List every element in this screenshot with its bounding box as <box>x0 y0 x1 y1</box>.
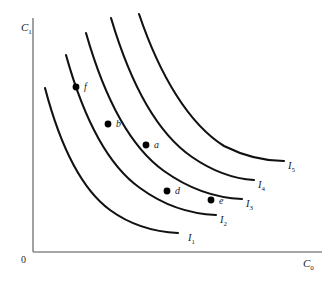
curve-label-sub: 2 <box>224 220 228 228</box>
data-point-f <box>73 84 80 91</box>
origin-label: 0 <box>21 255 26 265</box>
curve-label-sub: 3 <box>250 204 254 212</box>
y-axis-label: C1 <box>21 22 32 36</box>
curve-label-i1: I1 <box>188 233 195 246</box>
data-point-e <box>208 197 215 204</box>
curve-label-sub: 5 <box>292 166 296 174</box>
data-point-d <box>164 188 171 195</box>
indifference-curve-i3 <box>86 33 242 199</box>
axes-group <box>33 18 322 252</box>
curve-label-i4: I4 <box>258 180 265 193</box>
point-label-a: a <box>154 140 159 150</box>
point-label-e: e <box>219 196 223 206</box>
data-points-group <box>73 84 215 204</box>
x-axis-label-sub: 0 <box>310 264 314 272</box>
plot-canvas <box>0 0 333 286</box>
indifference-curve-i2 <box>66 55 216 215</box>
curve-label-sub: 4 <box>262 185 266 193</box>
point-label-b: b <box>116 119 121 129</box>
point-label-d: d <box>175 186 180 196</box>
indifference-curve-i5 <box>139 14 284 161</box>
curve-label-i3: I3 <box>246 199 253 212</box>
curve-label-i2: I2 <box>220 215 227 228</box>
indifference-curve-i4 <box>111 18 254 180</box>
data-point-b <box>105 121 112 128</box>
point-label-f: f <box>84 82 87 92</box>
y-axis-label-sub: 1 <box>28 28 32 36</box>
x-axis-label: C0 <box>303 258 314 272</box>
curve-label-sub: 1 <box>192 238 196 246</box>
data-point-a <box>143 142 150 149</box>
indifference-curve-figure: C1 C0 0 I1I2I3I4I5 fbade <box>0 0 333 286</box>
curve-label-i5: I5 <box>288 161 295 174</box>
